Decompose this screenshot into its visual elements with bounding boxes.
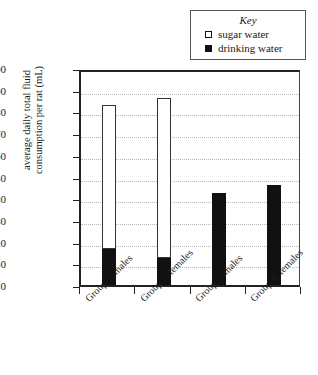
y-axis-tick-label: 0	[0, 281, 6, 292]
legend-item-drinking-water: drinking water	[191, 42, 305, 55]
chart-legend: Key sugar water drinking water	[190, 10, 306, 60]
x-axis-tick-mark	[134, 287, 135, 294]
y-axis-tick-label: 40	[0, 194, 6, 205]
y-axis-tick-label: 80	[0, 107, 6, 118]
x-axis-tick-mark	[79, 287, 80, 294]
y-axis-tick-label: 10	[0, 259, 6, 270]
y-axis-tick-label: 50	[0, 173, 6, 184]
bar-segment-sugar-water	[102, 105, 116, 249]
legend-label-drinking-water: drinking water	[218, 42, 282, 55]
x-axis-tick-mark	[300, 287, 301, 294]
filled-square-icon	[205, 45, 212, 52]
x-axis-tick-mark	[190, 287, 191, 294]
y-axis-tick-label: 70	[0, 129, 6, 140]
y-axis-tick-label: 90	[0, 86, 6, 97]
legend-item-sugar-water: sugar water	[191, 28, 305, 41]
open-square-icon	[205, 31, 212, 38]
bar	[157, 98, 171, 285]
y-axis-tick-label: 60	[0, 151, 6, 162]
gridline	[81, 94, 299, 95]
y-axis-tick-label: 20	[0, 238, 6, 249]
y-axis-tick-label: 30	[0, 216, 6, 227]
x-axis-tick-mark	[245, 287, 246, 294]
y-axis-title-line-1: average daily total fluid	[21, 25, 33, 215]
y-axis-tick-label: 100	[0, 64, 6, 75]
legend-title: Key	[191, 14, 305, 27]
legend-label-sugar-water: sugar water	[218, 28, 269, 41]
bar-chart: Key sugar water drinking water average d…	[0, 0, 318, 375]
y-axis-title-line-2: consumption per rat (mL)	[33, 25, 45, 215]
bar	[102, 105, 116, 285]
y-axis-title: average daily total fluid consumption pe…	[21, 25, 45, 215]
bar-segment-sugar-water	[157, 98, 171, 257]
